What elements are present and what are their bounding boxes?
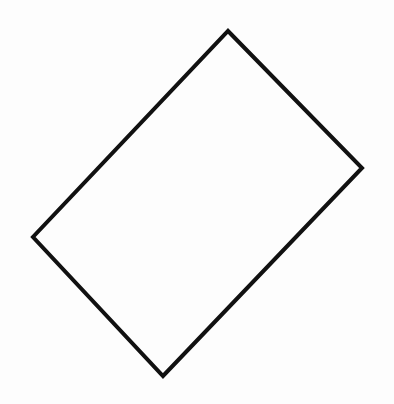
diagram-canvas bbox=[0, 0, 394, 404]
background bbox=[0, 0, 394, 404]
diagram-svg bbox=[0, 0, 394, 404]
